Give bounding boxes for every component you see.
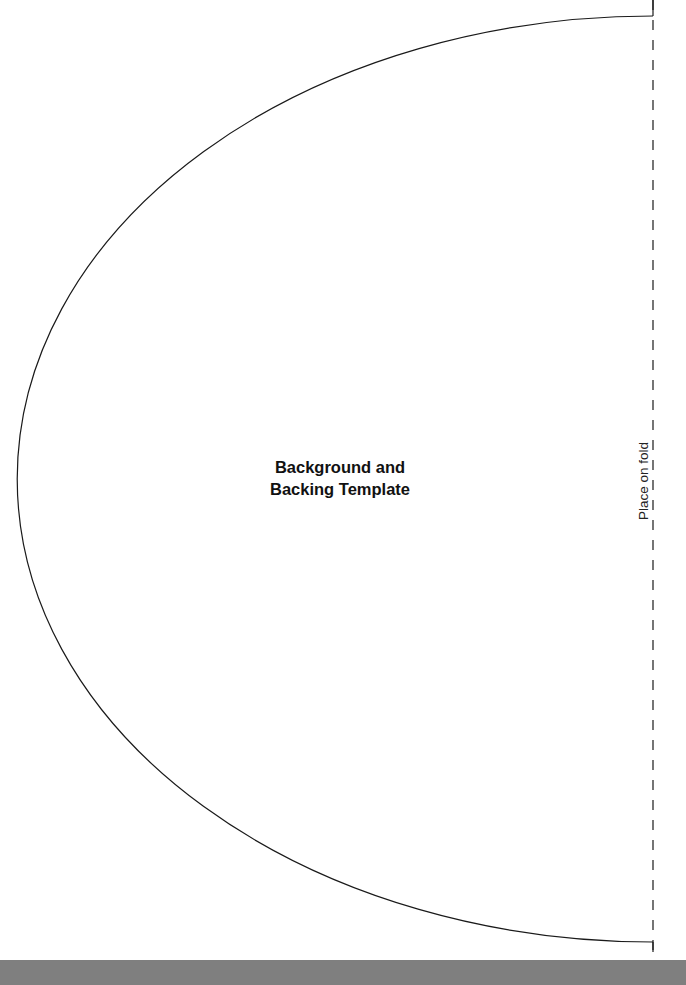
template-title: Background and Backing Template [200,456,480,500]
title-line-1: Background and [200,456,480,478]
template-page: Background and Backing Template Place on… [0,0,686,960]
bottom-gray-band [0,960,686,985]
fold-label: Place on fold [636,440,651,522]
title-line-2: Backing Template [200,478,480,500]
